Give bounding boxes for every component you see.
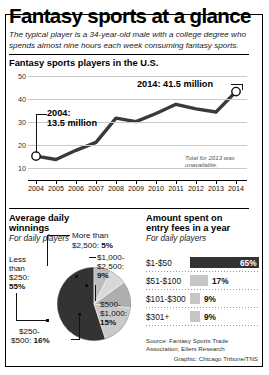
leader-less-horizontal [16,320,47,321]
pie-label-more-l1: More than [72,231,108,241]
x-tick-2010: 2010 [145,185,167,193]
divider-middle [9,208,249,209]
bar-row-4: $301+ 9% [146,309,259,326]
pie-label-two-pct: 16% [34,336,50,345]
x-tick-2012: 2012 [185,185,207,193]
infographic-page: Fantasy sports at a glance The typical p… [0,0,269,375]
x-tick-2004: 2004 [25,185,47,193]
bar-value-2: 17% [212,276,229,286]
callout-2004-line1: 2004: [47,108,71,118]
callout-2014: 2014: 41.5 million [137,79,213,89]
x-tick-2008: 2008 [105,185,127,193]
pie-label-less-pct: 55% [9,282,25,292]
bar-label-3: $101-$300 [146,294,186,304]
pie-chart: Less than $250: 55% More than $2,500: 5%… [9,255,134,355]
pie-label-more-pct: 5% [101,241,113,250]
x-tick-2006: 2006 [65,185,87,193]
bar-chart: $1-$50 65% $51-$100 17% $101-$300 9% $30… [146,255,261,350]
x-tick-2009: 2009 [125,185,147,193]
leader-2004-horizontal [36,114,47,115]
bar-heading-line2: entry fees in a year [146,223,230,234]
y-tick-10: 10 [10,164,26,173]
gridline-50 [28,76,247,77]
leader-mid-horizontal [89,257,96,258]
leader-more-horizontal [47,235,70,236]
bar-fill-3 [190,293,200,304]
y-tick-50: 50 [10,72,26,81]
x-tick-2014: 2014 [225,185,247,193]
leader-five-vertical [95,285,96,301]
bar-row-1: $1-$50 65% [146,255,259,272]
bar-value-3: 9% [204,294,216,304]
source-note: Source: Fantasy Sports Trade Association… [146,337,258,352]
y-tick-20: 20 [10,141,26,150]
pie-label-five-pct: 15% [100,318,116,328]
pie-heading-line2: winnings [9,223,49,234]
bar-fill-4 [190,311,200,322]
page-subtitle: The typical player is a 34-year-old male… [9,30,249,51]
chart-note: Total for 2013 was unavailable. [185,154,247,169]
leader-two-vertical [79,317,80,340]
leader-more-vertical [47,235,48,266]
pie-heading-line1: Average daily [9,213,69,224]
bar-label-2: $51-$100 [146,276,181,286]
bar-value-1: 65% [240,258,257,268]
page-title: Fantasy sports at a glance [9,5,251,27]
leader-2004-vertical [36,114,37,153]
pie-label-two-l2: $500: 16% [11,336,50,346]
marker-less [46,319,49,322]
marker-mid [85,284,88,287]
x-tick-2007: 2007 [85,185,107,193]
x-tick-2011: 2011 [165,185,187,193]
bar-row-2: $51-$100 17% [146,273,259,290]
line-chart: 50 40 30 20 10 Total for 2013 was unavai… [9,62,249,198]
bar-fill-2 [190,275,208,286]
pie-label-mid-pct: 9% [97,271,109,281]
marker-two [78,313,81,316]
graphic-credit: Graphic: Chicago Tribune/TNS [146,355,258,362]
gridline-40 [28,99,247,100]
callout-2004-line2: 13.5 million [47,118,97,128]
gridline-20 [28,145,247,146]
y-tick-30: 30 [10,118,26,127]
marker-more [75,275,78,278]
x-tick-2013: 2013 [205,185,227,193]
divider-top [9,54,249,55]
x-tick-2005: 2005 [45,185,67,193]
leader-2014-horizontal [231,84,242,85]
bar-value-4: 9% [204,312,216,322]
bar-row-3: $101-$300 9% [146,291,259,308]
bar-label-1: $1-$50 [146,258,172,268]
y-tick-40: 40 [10,95,26,104]
bar-subheading: For daily players [146,234,206,243]
pie-label-more-l2: $2,500: 5% [72,241,113,251]
bar-label-4: $301+ [146,312,169,322]
y-axis: 50 40 30 20 10 [9,72,26,180]
leader-less-vertical [16,293,17,320]
bar-heading-line1: Amount spent on [146,213,222,224]
leader-2014-vertical [242,84,243,90]
